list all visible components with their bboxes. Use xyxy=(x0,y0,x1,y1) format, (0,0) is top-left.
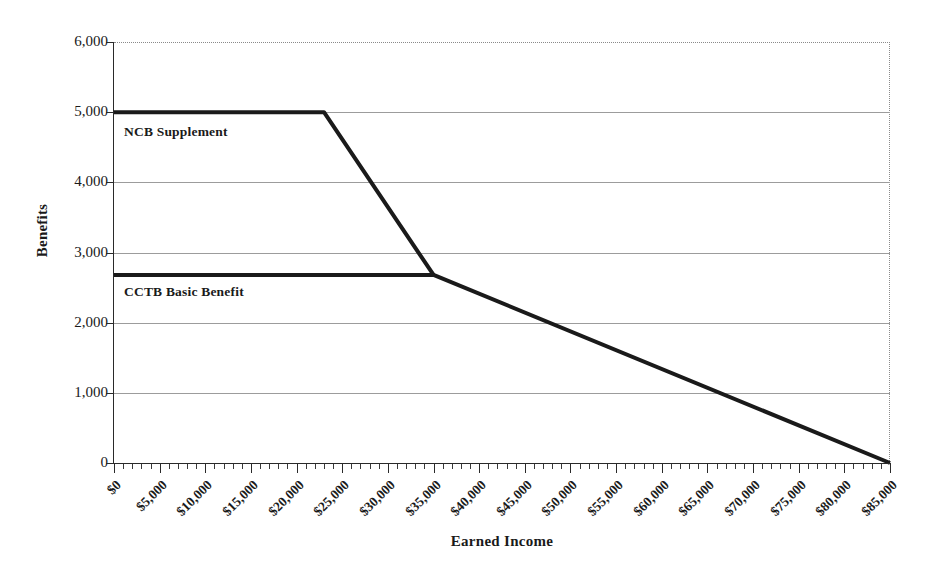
x-axis-tick-minor xyxy=(689,464,690,469)
benefits-vs-earned-income-chart: Benefits 01,0002,0003,0004,0005,0006,000… xyxy=(0,0,937,577)
x-axis-tick-minor xyxy=(607,464,608,469)
series-annotation-cctb-basic-benefit: CCTB Basic Benefit xyxy=(124,284,244,300)
y-axis-tick-label: 6,000 xyxy=(40,34,108,49)
x-axis-tick-minor xyxy=(726,464,727,469)
x-axis-tick-minor xyxy=(287,464,288,469)
x-axis-tick-minor xyxy=(306,464,307,469)
x-axis-tick-label-text: $0 xyxy=(104,478,123,497)
x-axis-tick-label-text: $5,000 xyxy=(133,478,169,514)
x-axis-tick-minor xyxy=(744,464,745,469)
x-axis-tick-minor xyxy=(278,464,279,469)
x-axis-tick-label-text: $80,000 xyxy=(813,478,854,519)
x-axis-title: Earned Income xyxy=(114,533,890,550)
x-axis-tick-minor xyxy=(233,464,234,469)
x-axis-tick-minor xyxy=(488,464,489,469)
x-axis-tick-label-text: $20,000 xyxy=(266,478,307,519)
x-axis-tick-minor xyxy=(808,464,809,469)
x-axis-tick-minor xyxy=(260,464,261,469)
y-axis-tick xyxy=(106,323,114,324)
x-axis-tick-minor xyxy=(580,464,581,469)
x-axis-tick-minor xyxy=(552,464,553,469)
x-axis-tick-minor xyxy=(872,464,873,469)
x-axis-tick-major xyxy=(388,464,389,473)
x-axis-tick-minor xyxy=(351,464,352,469)
y-axis-tick-labels: 01,0002,0003,0004,0005,0006,000 xyxy=(40,30,108,475)
y-axis-tick-label: 0 xyxy=(40,455,108,470)
x-axis-tick-minor xyxy=(735,464,736,469)
y-axis-tick xyxy=(106,182,114,183)
x-axis-tick-major xyxy=(205,464,206,473)
x-axis-tick-minor xyxy=(461,464,462,469)
x-axis-tick-minor xyxy=(443,464,444,469)
x-axis-tick-minor xyxy=(424,464,425,469)
x-axis-tick-major xyxy=(160,464,161,473)
series-annotation-ncb-supplement: NCB Supplement xyxy=(124,124,228,140)
x-axis-tick-minor xyxy=(853,464,854,469)
x-axis-tick-minor xyxy=(534,464,535,469)
x-axis-tick-minor xyxy=(653,464,654,469)
x-axis-tick-label-text: $10,000 xyxy=(174,478,215,519)
x-axis-tick-major xyxy=(114,464,115,473)
x-axis-tick-major xyxy=(479,464,480,473)
x-axis-tick-major xyxy=(662,464,663,473)
x-axis-tick-label-text: $15,000 xyxy=(220,478,261,519)
x-axis-tick-minor xyxy=(196,464,197,469)
x-axis-tick-label-text: $30,000 xyxy=(357,478,398,519)
x-axis-tick-minor xyxy=(132,464,133,469)
x-axis-tick-label-text: $35,000 xyxy=(402,478,443,519)
x-axis-tick-label-text: $45,000 xyxy=(494,478,535,519)
x-axis-tick-major xyxy=(525,464,526,473)
x-axis-tick-label: $0 xyxy=(0,478,124,577)
x-axis-tick-minor xyxy=(771,464,772,469)
x-axis-tick-label-text: $50,000 xyxy=(539,478,580,519)
x-axis-tick-minor xyxy=(169,464,170,469)
x-axis-tick-minor xyxy=(187,464,188,469)
x-axis-tick-minor xyxy=(214,464,215,469)
x-axis-tick-minor xyxy=(452,464,453,469)
x-axis-tick-minor xyxy=(360,464,361,469)
x-axis-tick-label-text: $65,000 xyxy=(676,478,717,519)
x-axis-tick-minor xyxy=(826,464,827,469)
x-axis-tick-minor xyxy=(379,464,380,469)
x-axis-tick-label-text: $60,000 xyxy=(631,478,672,519)
x-axis-tick-major xyxy=(616,464,617,473)
x-axis-tick-major xyxy=(297,464,298,473)
y-axis-tick-label: 2,000 xyxy=(40,315,108,330)
x-axis-tick-minor xyxy=(516,464,517,469)
y-axis-tick xyxy=(106,393,114,394)
x-axis-tick-minor xyxy=(589,464,590,469)
x-axis-tick-major xyxy=(753,464,754,473)
x-axis-tick-minor xyxy=(315,464,316,469)
y-axis-tick-label: 1,000 xyxy=(40,385,108,400)
x-axis-tick-minor xyxy=(507,464,508,469)
series-lines xyxy=(114,42,890,463)
x-axis-tick-minor xyxy=(415,464,416,469)
x-axis-tick-minor xyxy=(863,464,864,469)
x-axis-tick-minor xyxy=(123,464,124,469)
x-axis-tick-minor xyxy=(543,464,544,469)
y-axis-tick xyxy=(106,253,114,254)
x-axis-tick-minor xyxy=(780,464,781,469)
x-axis-tick-major xyxy=(890,464,891,473)
x-axis-tick-label-text: $40,000 xyxy=(448,478,489,519)
x-axis-tick-minor xyxy=(680,464,681,469)
y-axis-tick xyxy=(106,463,114,464)
x-axis-tick-minor xyxy=(151,464,152,469)
x-axis-tick-minor xyxy=(269,464,270,469)
y-axis-tick-label: 3,000 xyxy=(40,245,108,260)
x-axis-tick-major xyxy=(251,464,252,473)
x-axis-tick-minor xyxy=(406,464,407,469)
x-axis-tick-minor xyxy=(817,464,818,469)
x-axis-tick-minor xyxy=(625,464,626,469)
x-axis-tick-minor xyxy=(561,464,562,469)
x-axis-tick-major xyxy=(707,464,708,473)
x-axis-tick-label-text: $55,000 xyxy=(585,478,626,519)
plot-area xyxy=(114,42,890,463)
x-axis-tick-minor xyxy=(644,464,645,469)
x-axis-tick-minor xyxy=(634,464,635,469)
y-axis-tick xyxy=(106,42,114,43)
x-axis-tick-label-text: $85,000 xyxy=(859,478,900,519)
x-axis-tick-minor xyxy=(497,464,498,469)
x-axis-tick-minor xyxy=(790,464,791,469)
x-axis-tick-minor xyxy=(370,464,371,469)
